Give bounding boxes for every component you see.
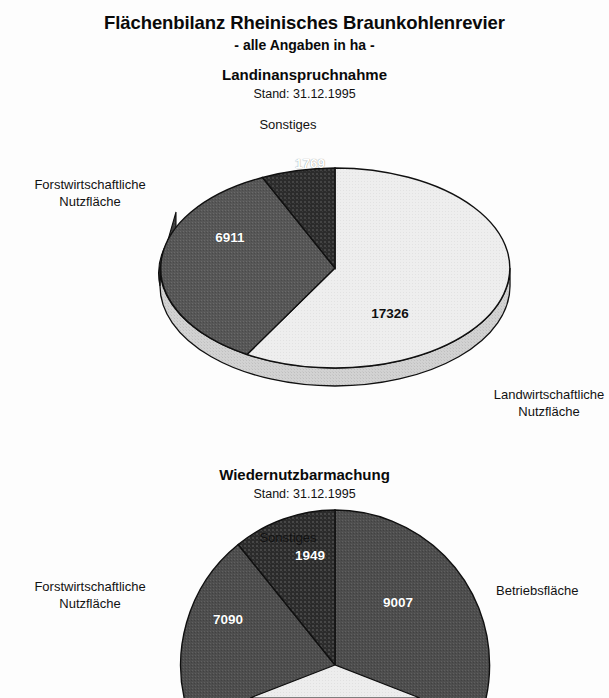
chart1-pie xyxy=(0,105,609,425)
chart-page: Flächenbilanz Rheinisches Braunkohlenrev… xyxy=(0,0,609,698)
chart2-value-sonstiges: 1949 xyxy=(272,548,348,563)
chart1-label-forstwirtschaftliche: Forstwirtschaftliche Nutzfläche xyxy=(14,176,166,210)
chart1-subtitle: Stand: 31.12.1995 xyxy=(0,87,609,101)
chart1-value-sonstiges: 1769 xyxy=(272,156,348,171)
chart1-label-sonstiges: Sonstiges xyxy=(233,116,343,133)
chart1-value-landwirtschaftliche: 17326 xyxy=(348,306,432,321)
chart2-label-betriebsflaeche: Betriebsfläche xyxy=(496,582,608,599)
chart1-value-forstwirtschaftliche: 6911 xyxy=(192,230,268,245)
page-subtitle: - alle Angaben in ha - xyxy=(0,37,609,53)
page-title: Flächenbilanz Rheinisches Braunkohlenrev… xyxy=(0,12,609,34)
chart1-title: Landinanspruchnahme xyxy=(0,66,609,83)
chart1-label-landwirtschaftliche: Landwirtschaftliche Nutzfläche xyxy=(489,386,609,420)
chart2-value-forstwirtschaftliche: 7090 xyxy=(190,612,266,627)
chart2-label-forstwirtschaftliche: Forstwirtschaftliche Nutzfläche xyxy=(14,578,166,612)
chart2-title: Wiedernutzbarmachung xyxy=(0,466,609,483)
chart2-value-betriebsflaeche: 9007 xyxy=(360,595,436,610)
chart2-label-sonstiges: Sonstiges xyxy=(233,529,343,546)
chart2-subtitle: Stand: 31.12.1995 xyxy=(0,487,609,501)
